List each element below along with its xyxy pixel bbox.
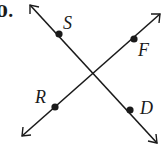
point-d xyxy=(126,106,133,113)
intersecting-lines-diagram: 0. S F R D xyxy=(0,0,162,160)
point-f xyxy=(130,35,137,42)
label-r: R xyxy=(34,87,46,107)
point-r xyxy=(51,103,58,110)
point-s xyxy=(55,30,62,37)
problem-number: 0. xyxy=(0,1,14,21)
label-f: F xyxy=(137,40,150,60)
label-s: S xyxy=(63,13,72,33)
label-d: D xyxy=(139,98,153,118)
line-sd xyxy=(30,5,157,143)
